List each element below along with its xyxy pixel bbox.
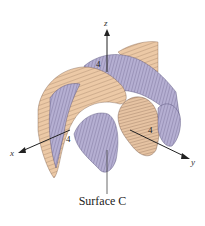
surface-right-lobe: [118, 97, 159, 156]
y-axis-label: y: [190, 157, 195, 167]
y-tick-label: 4: [148, 125, 153, 135]
z-axis-label: z: [103, 18, 108, 28]
x-axis-label: x: [9, 148, 14, 158]
z-tick-label: 4: [96, 59, 101, 69]
surface-plot: z x y 4 4 4: [0, 0, 205, 226]
surface-right-purple-lobe: [158, 104, 181, 146]
surface-front-purple-lobe: [74, 113, 118, 172]
figure-caption: Surface C: [0, 194, 205, 209]
x-tick-label: 4: [66, 134, 71, 144]
